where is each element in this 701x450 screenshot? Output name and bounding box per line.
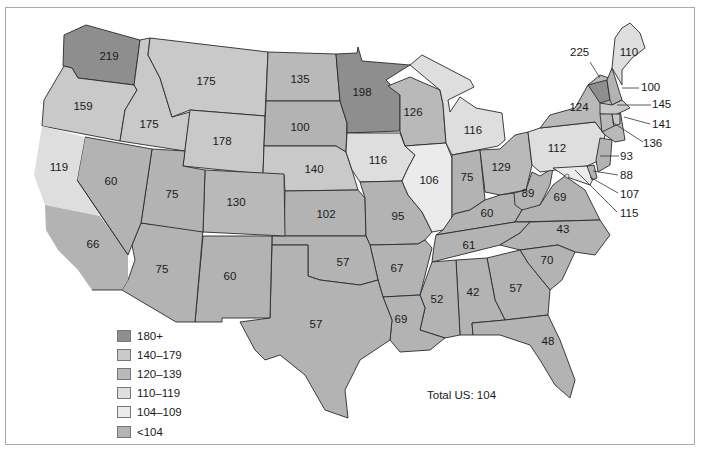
- callout-ma-label: 145: [652, 98, 671, 110]
- legend-label: 110–119: [137, 387, 180, 399]
- label-mn: 198: [352, 86, 371, 98]
- callout-de-label: 88: [620, 169, 633, 181]
- legend-label: 140–179: [137, 349, 182, 361]
- legend-label: <104: [137, 426, 163, 438]
- legend-label: 104–109: [137, 406, 182, 418]
- legend-item-104-109: 104–109: [117, 403, 182, 422]
- label-nm: 60: [224, 270, 237, 282]
- label-ga: 57: [510, 282, 523, 294]
- label-tx: 57: [310, 318, 323, 330]
- state-florida: [472, 315, 575, 398]
- state-pennsylvania: [528, 122, 605, 172]
- legend-swatch: [117, 349, 131, 361]
- legend: 180+ 140–179 120–139 110–119 104–109 <10…: [117, 326, 182, 441]
- legend-swatch: [117, 330, 131, 342]
- legend-swatch: [117, 368, 131, 380]
- callout-dc-label: 115: [620, 207, 638, 219]
- label-nc: 43: [557, 223, 570, 235]
- total-us-label: Total US: 104: [427, 389, 496, 401]
- label-pa: 112: [548, 142, 566, 154]
- label-va: 69: [554, 191, 567, 203]
- legend-swatch: [117, 426, 131, 438]
- label-me: 110: [620, 46, 638, 58]
- label-ks: 102: [316, 208, 335, 220]
- label-ca-south: 66: [87, 238, 100, 250]
- callout-md-label: 107: [620, 188, 639, 200]
- label-wa: 219: [99, 50, 118, 62]
- label-ok: 57: [337, 256, 350, 268]
- callout-nh-label: 100: [641, 81, 660, 93]
- label-ca-north: 119: [50, 161, 68, 173]
- state-dc: [565, 174, 569, 178]
- label-in: 75: [461, 171, 474, 183]
- label-mt: 175: [196, 75, 215, 87]
- legend-item-140-179: 140–179: [117, 345, 182, 364]
- label-al: 42: [467, 286, 480, 298]
- label-la: 69: [395, 313, 408, 325]
- label-wv: 89: [522, 187, 535, 199]
- legend-item-120-139: 120–139: [117, 364, 182, 383]
- legend-swatch: [117, 387, 131, 399]
- legend-item-180-plus: 180+: [117, 326, 182, 345]
- label-mi: 116: [464, 124, 482, 136]
- legend-item-under-104: <104: [117, 422, 182, 441]
- label-sd: 100: [290, 121, 309, 133]
- us-map: 219 159 119 66 60 175 175 178 75 130 75 …: [0, 0, 701, 450]
- label-id: 175: [139, 118, 158, 130]
- label-tn: 61: [463, 239, 476, 251]
- label-sc: 70: [541, 254, 554, 266]
- label-ut: 75: [166, 188, 179, 200]
- legend-label: 180+: [137, 330, 163, 342]
- label-fl: 48: [542, 335, 555, 347]
- label-wy: 178: [212, 135, 231, 147]
- label-wi: 126: [403, 106, 422, 118]
- label-nv: 60: [105, 175, 118, 187]
- legend-label: 120–139: [137, 368, 182, 380]
- legend-swatch: [117, 406, 131, 418]
- callout-nj-label: 93: [620, 150, 633, 162]
- label-il: 106: [419, 174, 438, 186]
- label-oh: 129: [491, 161, 510, 173]
- callout-ct-label: 136: [643, 137, 662, 149]
- label-ny: 124: [569, 101, 589, 113]
- label-mo: 95: [392, 210, 405, 222]
- callout-ri-label: 141: [652, 118, 671, 130]
- label-nd: 135: [290, 73, 309, 85]
- label-co: 130: [226, 196, 245, 208]
- label-ne: 140: [304, 163, 323, 175]
- label-ms: 52: [431, 293, 444, 305]
- legend-item-110-119: 110–119: [117, 384, 182, 403]
- callout-vt-label: 225: [570, 46, 589, 58]
- label-ky: 60: [481, 207, 494, 219]
- label-az: 75: [156, 263, 169, 275]
- label-ia: 116: [369, 154, 387, 166]
- label-or: 159: [73, 100, 92, 112]
- label-ar: 67: [391, 262, 404, 274]
